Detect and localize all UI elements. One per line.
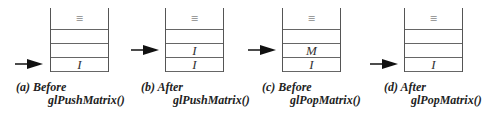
- stack-cell: I: [405, 58, 462, 72]
- stack-bottom: [405, 71, 462, 72]
- caption-line-2: glPopMatrix(): [411, 94, 482, 107]
- stack-divider: [405, 43, 462, 44]
- panel-d: ≡ I (d) After glPopMatrix(): [0, 0, 501, 116]
- stack-pointer-arrow-icon: [370, 59, 398, 69]
- stack-continuation-icon: ≡: [405, 12, 462, 25]
- matrix-stack: ≡ I: [404, 8, 463, 72]
- stack-divider: [405, 29, 462, 30]
